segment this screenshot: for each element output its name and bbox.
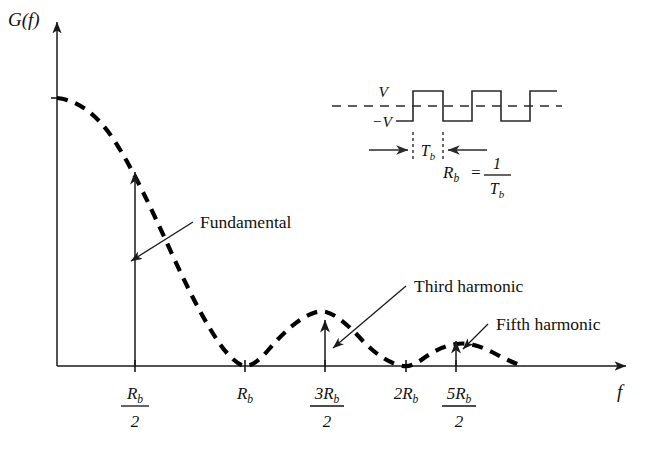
inset-rate-lhs: Rb [442,163,459,185]
annotation-third-harmonic-label: Third harmonic [414,276,524,296]
x-axis-label: f [617,381,625,402]
tick-label-rb-over-2: Rb 2 [121,384,149,431]
tick-label-rb: Rb [236,384,253,406]
inset-v-label: V [379,83,390,100]
third-harmonic-leader [333,286,406,348]
svg-text:2: 2 [455,412,464,431]
inset-rate-numerator: 1 [493,155,501,172]
tick-label-5rb-over-2: 5Rb 2 [442,384,476,431]
svg-text:3Rb: 3Rb [314,384,340,406]
inset-rate-denominator: Tb [490,180,505,200]
svg-text:2: 2 [323,412,332,431]
inset-waveform: V −V Tb Rb = [332,83,562,200]
annotation-fifth-harmonic-label: Fifth harmonic [496,314,601,334]
y-axis-label: G(f) [8,9,40,31]
tick-label-3rb-over-2: 3Rb 2 [310,384,344,431]
annotation-fundamental-label: Fundamental [200,212,292,232]
spectrum-figure: G(f) f Fundame [0,0,648,452]
svg-text:2Rb: 2Rb [394,384,419,406]
svg-text:Rb: Rb [126,384,143,406]
spectral-envelope-curve [57,98,525,366]
figure-canvas: G(f) f Fundame [0,0,648,452]
svg-text:2: 2 [131,412,140,431]
svg-text:5Rb: 5Rb [447,384,472,406]
inset-rate-formula: Rb = 1 Tb [442,155,511,200]
inset-rate-equals: = [470,163,481,182]
tick-label-2rb: 2Rb [394,384,419,406]
x-tick-marks [51,98,456,372]
inset-tb-label: Tb [421,142,436,162]
spectral-lines-group [135,172,456,366]
inset-neg-v-label: −V [372,113,393,130]
svg-text:Rb: Rb [236,384,253,406]
